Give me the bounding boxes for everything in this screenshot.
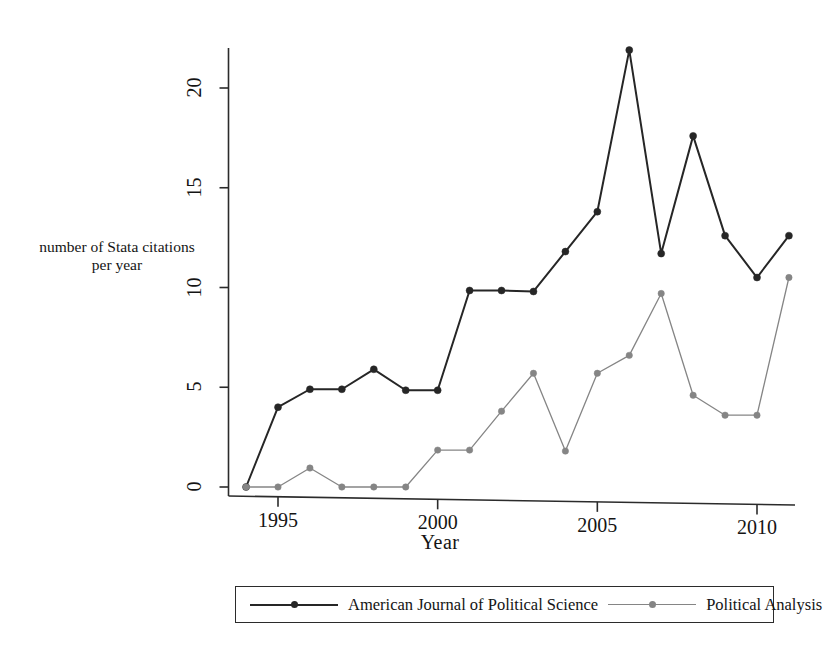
x-axis-tick-label: 2010	[722, 516, 792, 539]
series-line	[246, 278, 789, 487]
series-data-point	[307, 465, 313, 471]
series-data-point	[339, 484, 345, 490]
x-axis-tick-label: 2000	[403, 511, 473, 534]
series-data-point	[498, 287, 505, 294]
series-data-point	[562, 248, 569, 255]
legend-label: Political Analysis	[706, 595, 822, 615]
series-data-point	[243, 484, 249, 490]
legend-entry: Political Analysis	[608, 595, 832, 615]
series-data-point	[466, 287, 473, 294]
legend-dot-icon	[291, 601, 298, 608]
series-data-point	[594, 208, 601, 215]
series-data-point	[722, 412, 728, 418]
legend-row: American Journal of Political SciencePol…	[236, 587, 773, 622]
plot-area	[0, 0, 836, 654]
series-data-point	[498, 408, 504, 414]
series-data-point	[562, 448, 568, 454]
series-data-point	[785, 232, 792, 239]
series-data-point	[306, 386, 313, 393]
series-data-point	[370, 366, 377, 373]
y-axis-tick-label: 0	[182, 465, 205, 509]
series-data-point	[786, 274, 792, 280]
legend-entry: American Journal of Political Science	[250, 595, 608, 615]
x-axis-tick-label: 2005	[562, 514, 632, 537]
chart-figure: number of Stata citations per year Year …	[0, 0, 836, 654]
legend-label: American Journal of Political Science	[348, 595, 598, 615]
series-data-point	[434, 387, 441, 394]
legend-key-icon	[250, 599, 338, 611]
series-data-point	[626, 352, 632, 358]
y-axis-tick-label: 5	[182, 365, 205, 409]
x-axis-tick-label: 1995	[243, 509, 313, 532]
series-data-point	[338, 386, 345, 393]
series-data-point	[722, 232, 729, 239]
series-data-point	[530, 288, 537, 295]
series-data-point	[275, 404, 282, 411]
series-data-point	[690, 392, 696, 398]
series-data-point	[275, 484, 281, 490]
series-data-point	[371, 484, 377, 490]
series-data-point	[754, 412, 760, 418]
series-data-point	[434, 447, 440, 453]
series-data-point	[402, 387, 409, 394]
series-data-point	[466, 447, 472, 453]
x-axis-title: Year	[421, 531, 459, 554]
legend-dot-icon	[649, 601, 656, 608]
series-data-point	[658, 250, 665, 257]
x-axis-line	[229, 496, 796, 505]
y-axis-tick-label: 10	[182, 265, 205, 309]
y-axis-tick-label: 20	[182, 66, 205, 110]
series-data-point	[754, 274, 761, 281]
legend-key-icon	[608, 599, 696, 611]
series-line	[246, 50, 789, 487]
series-data-point	[626, 47, 633, 54]
series-data-point	[594, 370, 600, 376]
series-data-point	[530, 370, 536, 376]
chart-legend: American Journal of Political SciencePol…	[235, 586, 774, 623]
series-data-point	[658, 290, 664, 296]
series-data-point	[403, 484, 409, 490]
y-axis-tick-label: 15	[182, 165, 205, 209]
series-data-point	[690, 132, 697, 139]
